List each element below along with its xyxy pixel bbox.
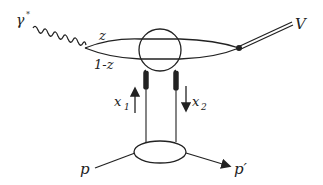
photon-label: γ (16, 12, 25, 28)
proton-in-label: p (80, 160, 90, 178)
photon-label-superscript: * (26, 10, 30, 19)
gluon-left (144, 70, 149, 142)
proton-blob (134, 141, 186, 163)
proton-in-line (95, 153, 135, 168)
x1-label: x (114, 94, 122, 109)
interaction-blob (139, 29, 181, 71)
feynman-diagram: γ * z 1-z V x 1 x 2 p p′ (0, 0, 323, 185)
photon-propagator (33, 26, 86, 45)
x1-label-subscript: 1 (124, 102, 130, 112)
quark-fraction-label: z (98, 28, 106, 43)
gluon-right (174, 70, 179, 142)
proton-out-label: p′ (234, 160, 248, 178)
x2-label-subscript: 2 (200, 102, 207, 112)
antiquark-fraction-label: 1-z (94, 57, 114, 72)
vector-meson-line-a (240, 22, 292, 46)
vector-meson-line-b (241, 25, 293, 49)
vector-meson-label: V (295, 15, 308, 33)
proton-out-line (186, 153, 229, 166)
quark-line (85, 39, 239, 48)
x2-label: x (192, 94, 200, 109)
